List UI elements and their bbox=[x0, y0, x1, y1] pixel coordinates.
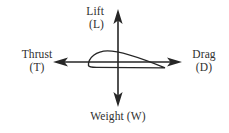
label-weight: Weight (W) bbox=[60, 110, 176, 123]
label-drag-symbol: (D) bbox=[182, 61, 226, 74]
label-drag: Drag (D) bbox=[182, 48, 226, 74]
label-lift-name: Lift bbox=[56, 5, 104, 18]
label-weight-name: Weight (W) bbox=[60, 110, 176, 123]
label-thrust-name: Thrust bbox=[8, 48, 66, 61]
label-drag-name: Drag bbox=[182, 48, 226, 61]
airfoil-outline bbox=[88, 51, 164, 68]
airfoil-force-diagram: Lift (L) Thrust (T) Drag (D) Weight (W) bbox=[0, 0, 229, 133]
label-lift: Lift (L) bbox=[56, 5, 104, 31]
airfoil-cross-section bbox=[88, 51, 164, 68]
vertical-force-axis bbox=[113, 9, 122, 107]
label-thrust-symbol: (T) bbox=[8, 61, 66, 74]
label-lift-symbol: (L) bbox=[56, 18, 104, 31]
label-thrust: Thrust (T) bbox=[8, 48, 66, 74]
